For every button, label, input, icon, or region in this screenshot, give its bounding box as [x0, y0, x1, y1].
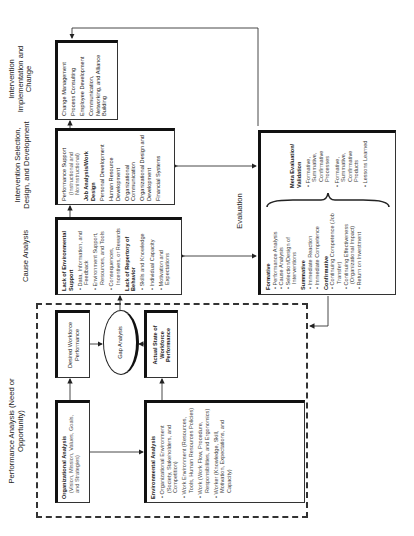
- eval-item: • Immediate Competence: [314, 212, 321, 290]
- env-item: • Work Environment (Resources, Tools, Hu…: [181, 406, 194, 499]
- header-cause-analysis: Cause Analysis: [22, 216, 31, 296]
- eval-item: • Continuing Effectiveness (Organization…: [343, 212, 356, 290]
- selection-item: Job Analysis/Work Design: [83, 134, 96, 201]
- meta-evaluation-heading: Meta Evaluation/ Validation: [289, 132, 302, 188]
- org-analysis-title: Organizational Analysis: [61, 406, 68, 499]
- env-item: • Work (Work Flow, Procedure, Responsibi…: [197, 406, 210, 499]
- actual-label: Actual State of Workforce Performance: [152, 316, 172, 374]
- gap-label: Gap Analysis: [117, 326, 124, 359]
- eval-item: • Performance Analysis: [272, 212, 279, 290]
- summative-heading: Summative: [300, 212, 307, 290]
- curly-brace-icon: [263, 190, 393, 210]
- selection-item: Personal Development: [99, 134, 106, 201]
- header-evaluation: Evaluation: [236, 176, 245, 246]
- desired-label: Desired Workforce Performance: [67, 316, 80, 374]
- selection-item: Human Resource Development: [108, 134, 121, 201]
- implementation-item: Communication, Networking, and Alliance …: [88, 46, 108, 116]
- organizational-analysis-box: Organizational Analysis (Vision, Mission…: [55, 400, 90, 503]
- formative-heading: Formative: [265, 212, 272, 290]
- eval-item: • Return on Investment: [356, 212, 363, 290]
- implementation-item: Process Consulting: [70, 46, 77, 116]
- env-item: • Worker (Knowledge, Skill, Motivation, …: [213, 406, 233, 499]
- cause-item: • Individual Capacity: [149, 223, 156, 291]
- cause-item: • Data, Information, and Feedback: [77, 223, 90, 291]
- eval-item: • Immediate Reaction: [307, 212, 314, 290]
- intervention-implementation-box: Change Management Process Consulting Emp…: [55, 40, 118, 120]
- cause-analysis-box: Lack of Environmental Support • Data, In…: [55, 217, 182, 295]
- header-intervention-selection: Intervention Selection, Design, and Deve…: [14, 120, 31, 210]
- selection-item: Organizational Communication: [124, 134, 137, 201]
- eval-item: • Selection/Design of Interventions: [285, 212, 298, 290]
- header-intervention-implementation: Intervention Implementation and Change: [8, 36, 34, 122]
- org-analysis-detail: (Vision, Mission, Values, Goals, and Str…: [68, 406, 81, 499]
- env-item: • Organizational Environment (Society, S…: [159, 406, 179, 499]
- confirmative-heading: Confirmative: [323, 212, 330, 290]
- eval-item: • Formative, Summative, Confirmative Pro…: [305, 132, 331, 188]
- evaluation-left-column: Formative • Performance Analysis • Cause…: [265, 212, 362, 290]
- cause-group-behavior: Lack of Repertory of Behavior: [124, 223, 137, 291]
- selection-item: Financial Systems: [155, 134, 162, 201]
- eval-item: • Cause Analysis: [278, 212, 285, 290]
- gap-analysis-ellipse: Gap Analysis: [103, 310, 139, 375]
- actual-performance-box: Actual State of Workforce Performance: [144, 310, 178, 378]
- evaluation-box: Formative • Performance Analysis • Cause…: [258, 130, 396, 295]
- environmental-analysis-box: Environmental Analysis • Organizational …: [144, 400, 305, 503]
- eval-item: • Lessons Learned: [362, 132, 369, 188]
- header-performance-analysis: Performance Analysis (Need or Opportunit…: [8, 366, 25, 496]
- implementation-item: Change Management: [61, 46, 68, 116]
- intervention-selection-box: Performance Support(Instructional and No…: [55, 128, 175, 205]
- env-analysis-title: Environmental Analysis: [150, 406, 157, 499]
- hpt-model-diagram: Performance Analysis (Need or Opportunit…: [0, 0, 414, 536]
- cause-item: • Motivation and Expectations: [158, 223, 171, 291]
- desired-performance-box: Desired Workforce Performance: [55, 310, 90, 378]
- evaluation-right-column: Meta Evaluation/ Validation • Formative,…: [289, 132, 369, 188]
- eval-item: • Formative, Summative, Confirmative Pro…: [334, 132, 360, 188]
- eval-item: • Continuing Competence (Job Transfer): [329, 212, 342, 290]
- cause-item: • Consequences, Incentives, or Rewards: [108, 223, 121, 291]
- cause-item: • Skills and Knowledge: [139, 223, 146, 291]
- selection-item: Performance Support(Instructional and No…: [61, 134, 81, 201]
- cause-group-environmental: Lack of Environmental Support: [61, 223, 74, 291]
- cause-item: • Environment Support, Resources, and To…: [92, 223, 105, 291]
- selection-item: Organizational Design and Development: [139, 134, 152, 201]
- implementation-item: Employee Development: [79, 46, 86, 116]
